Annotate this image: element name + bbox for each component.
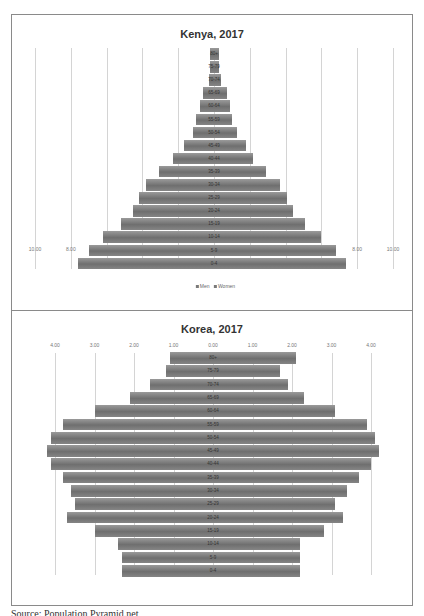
x-axis-tick-label: 0.00 — [208, 342, 218, 348]
x-axis-tick-label: 2.00 — [129, 342, 139, 348]
age-group-label: 55-59 — [207, 419, 219, 431]
age-group-label: 0-4 — [211, 258, 218, 270]
age-group-label: 65-69 — [207, 392, 219, 404]
age-group-label: 65-69 — [208, 87, 220, 99]
age-group-label: 75-79 — [208, 61, 220, 73]
age-group-label: 25-29 — [207, 498, 219, 510]
age-group-label: 60-64 — [207, 405, 219, 417]
gridline — [357, 48, 358, 269]
x-axis-tick-label: 1.00 — [248, 342, 258, 348]
gridline — [321, 48, 322, 269]
legend-swatch-men — [196, 285, 199, 288]
age-group-label: 0-4 — [210, 565, 217, 577]
x-axis-tick-label: 3.00 — [327, 342, 337, 348]
x-axis-tick-label: 8.00 — [352, 246, 362, 252]
age-group-label: 10-14 — [207, 538, 219, 550]
legend-swatch-women — [214, 285, 217, 288]
age-group-label: 75-79 — [207, 365, 219, 377]
age-group-label: 45-49 — [207, 445, 219, 457]
gridline — [371, 353, 372, 575]
age-group-label: 10-14 — [208, 231, 220, 243]
age-group-label: 15-19 — [207, 525, 219, 537]
korea-chart-panel: Korea, 2017 4.003.002.001.000.001.002.00… — [11, 310, 413, 606]
source-caption: Source: Population Pyramid.net — [11, 607, 139, 616]
age-group-label: 40-44 — [207, 458, 219, 470]
population-bar — [75, 498, 336, 510]
age-group-label: 40-44 — [208, 153, 220, 165]
x-axis-tick-label: 1.00 — [169, 342, 179, 348]
x-axis-tick-label: 4.00 — [366, 342, 376, 348]
x-axis-tick-label: 8.00 — [66, 246, 76, 252]
korea-chart-title: Korea, 2017 — [12, 323, 412, 335]
x-axis-tick-label: 10.00 — [29, 246, 42, 252]
age-group-label: 45-49 — [208, 140, 220, 152]
age-group-label: 15-19 — [208, 218, 220, 230]
age-group-label: 5-9 — [211, 245, 218, 257]
legend-label-men: Men — [200, 283, 210, 289]
age-group-label: 50-54 — [208, 127, 220, 139]
age-group-label: 35-39 — [208, 166, 220, 178]
gridline — [71, 48, 72, 269]
age-group-label: 70-74 — [207, 379, 219, 391]
kenya-chart-title: Kenya, 2017 — [12, 28, 412, 40]
age-group-label: 60-64 — [208, 100, 220, 112]
population-bar — [67, 512, 344, 524]
age-group-label: 80+ — [210, 48, 218, 60]
x-axis-tick-label: 2.00 — [287, 342, 297, 348]
gridline — [35, 48, 36, 269]
population-bar — [166, 365, 281, 377]
age-group-label: 50-54 — [207, 432, 219, 444]
age-group-label: 30-34 — [207, 485, 219, 497]
age-group-label: 25-29 — [208, 192, 220, 204]
age-group-label: 30-34 — [208, 179, 220, 191]
age-group-label: 5-9 — [210, 552, 217, 564]
kenya-legend: Men Women — [193, 283, 235, 289]
kenya-chart-panel: Kenya, 2017 Men Women 10.008.006.004.002… — [11, 14, 413, 311]
x-axis-tick-label: 3.00 — [90, 342, 100, 348]
x-axis-tick-label: 4.00 — [50, 342, 60, 348]
legend-label-women: Women — [218, 283, 235, 289]
age-group-label: 20-24 — [207, 512, 219, 524]
age-group-label: 55-59 — [208, 114, 220, 126]
age-group-label: 80+ — [209, 352, 217, 364]
age-group-label: 70-74 — [208, 74, 220, 86]
population-bar — [170, 352, 296, 364]
x-axis-tick-label: 10.00 — [387, 246, 400, 252]
gridline — [393, 48, 394, 269]
age-group-label: 20-24 — [208, 205, 220, 217]
age-group-label: 35-39 — [207, 472, 219, 484]
